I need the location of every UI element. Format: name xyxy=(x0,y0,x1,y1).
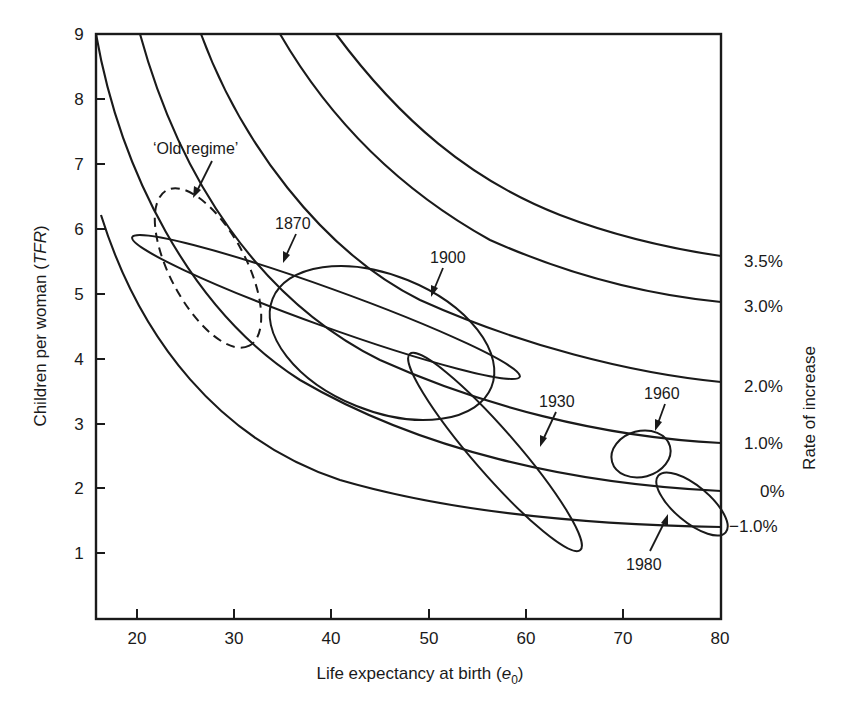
curve-3.5pct xyxy=(336,34,721,256)
label-old-regime: ‘Old regime’ xyxy=(153,140,238,157)
rate-labels: 3.5% 3.0% 2.0% 1.0% 0% −1.0% xyxy=(729,252,785,536)
x-axis-tick-labels: 20 30 40 50 60 70 80 xyxy=(128,629,730,648)
x-tick-80: 80 xyxy=(711,629,730,648)
rate-label-2.0: 2.0% xyxy=(744,377,783,396)
x-tick-70: 70 xyxy=(614,629,633,648)
period-regions xyxy=(126,172,738,564)
y-tick-1: 1 xyxy=(74,544,83,563)
rate-label-1.0: 1.0% xyxy=(744,434,783,453)
x-tick-50: 50 xyxy=(420,629,439,648)
arrowhead-1960 xyxy=(655,419,662,431)
curve-0pct xyxy=(96,34,721,491)
label-1980: 1980 xyxy=(626,556,662,573)
label-1900: 1900 xyxy=(430,249,466,266)
x-tick-30: 30 xyxy=(225,629,244,648)
y-tick-6: 6 xyxy=(74,220,83,239)
arrowhead-1980 xyxy=(661,514,668,526)
curve-2.0pct xyxy=(201,34,721,382)
x-axis-ticks xyxy=(137,609,623,619)
region-1960 xyxy=(606,424,676,484)
rate-label-3.0: 3.0% xyxy=(744,297,783,316)
y-tick-4: 4 xyxy=(74,350,83,369)
x-tick-20: 20 xyxy=(128,629,147,648)
curve-3.0pct xyxy=(280,34,721,302)
y-tick-5: 5 xyxy=(74,285,83,304)
rate-label-3.5: 3.5% xyxy=(744,252,783,271)
y-tick-9: 9 xyxy=(74,25,83,44)
y2-axis-title: Rate of increase xyxy=(800,346,819,470)
label-1870: 1870 xyxy=(275,215,311,232)
y-axis-ticks xyxy=(96,34,105,553)
y-tick-8: 8 xyxy=(74,90,83,109)
y-tick-2: 2 xyxy=(74,479,83,498)
tfr-vs-life-expectancy-chart: 9 8 7 6 5 4 3 2 1 20 30 40 50 60 70 80 L… xyxy=(0,0,849,713)
x-tick-40: 40 xyxy=(322,629,341,648)
x-tick-60: 60 xyxy=(517,629,536,648)
plot-frame xyxy=(96,34,721,619)
region-1870 xyxy=(126,219,527,394)
y-axis-title: Children per woman (TFR) xyxy=(31,225,50,426)
arrowhead-1930 xyxy=(540,435,547,447)
y-tick-7: 7 xyxy=(74,155,83,174)
label-1960: 1960 xyxy=(644,385,680,402)
rate-label-0: 0% xyxy=(760,482,785,501)
rate-label-minus-1.0: −1.0% xyxy=(729,517,778,536)
y-axis-tick-labels: 9 8 7 6 5 4 3 2 1 xyxy=(74,25,83,563)
label-1930: 1930 xyxy=(539,393,575,410)
y-tick-3: 3 xyxy=(74,415,83,434)
arrowhead-old-regime xyxy=(193,186,201,198)
x-axis-title: Life expectancy at birth (e0) xyxy=(316,664,523,687)
region-1900 xyxy=(247,236,517,451)
region-1980 xyxy=(647,462,738,546)
